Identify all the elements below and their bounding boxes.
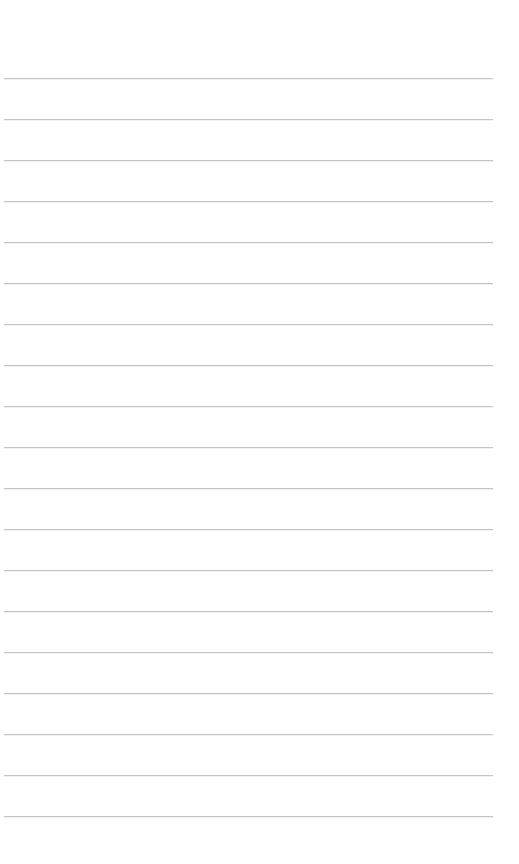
ruled-line xyxy=(4,78,493,79)
ruled-line xyxy=(4,570,493,571)
ruled-line xyxy=(4,529,493,530)
ruled-line xyxy=(4,242,493,243)
ruled-line xyxy=(4,283,493,284)
ruled-line xyxy=(4,652,493,653)
lined-paper-page xyxy=(0,0,519,864)
ruled-line xyxy=(4,816,493,817)
ruled-line xyxy=(4,324,493,325)
ruled-line xyxy=(4,775,493,776)
ruled-line xyxy=(4,693,493,694)
ruled-line xyxy=(4,365,493,366)
ruled-line xyxy=(4,201,493,202)
ruled-line xyxy=(4,160,493,161)
ruled-line xyxy=(4,406,493,407)
ruled-line xyxy=(4,447,493,448)
ruled-line xyxy=(4,119,493,120)
ruled-line xyxy=(4,611,493,612)
ruled-line xyxy=(4,734,493,735)
ruled-line xyxy=(4,488,493,489)
